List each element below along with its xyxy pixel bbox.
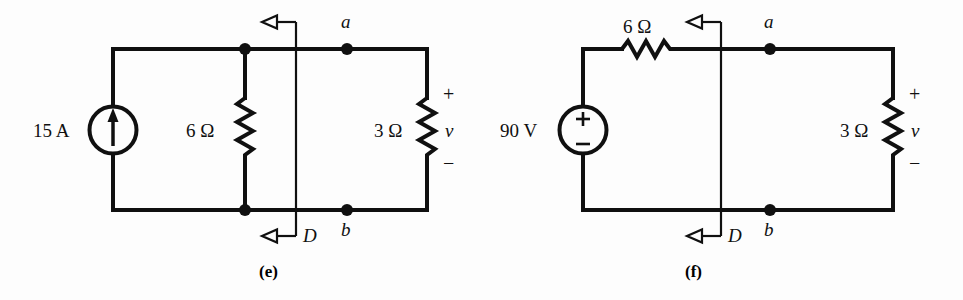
terminal-dot-a [341,43,353,55]
junction-dot-bottom-left [239,204,251,216]
terminal-dot-b [341,204,353,216]
junction-dot-top-left [239,43,251,55]
source-value-label-e: 15 A [33,121,69,140]
polarity-minus-f: − [909,153,920,173]
resistor-3-ohm-symbol [419,98,435,162]
resistor-6-ohm-label-f: 6 Ω [623,17,651,36]
voltage-source-symbol [560,107,607,154]
polarity-plus-f: + [909,84,920,104]
voltage-variable-label-e: v [445,121,453,140]
terminal-label-b-e: b [341,220,351,239]
terminal-label-b-f: b [764,220,774,239]
terminal-dot-a [764,43,776,55]
resistor-6-ohm-symbol [622,41,676,57]
terminal-label-a-f: a [764,12,774,31]
current-source-symbol [90,107,137,154]
arrow-left-open-bottom [687,230,702,243]
arrow-left-open-bottom [262,230,277,243]
cut-line-label-d-e: D [303,226,317,245]
figure-sheet: 15 A 6 Ω 3 Ω a b D + v − (e) [0,0,963,300]
circuit-f-schematic [480,0,963,300]
resistor-6-ohm-symbol [237,98,253,162]
resistor-3-ohm-label-e: 3 Ω [374,121,402,140]
voltage-variable-label-f: v [911,121,919,140]
circuit-e-schematic [0,0,480,300]
cut-line-label-d-f: D [728,226,742,245]
terminal-dot-b [764,204,776,216]
source-value-label-f: 90 V [500,121,537,140]
resistor-3-ohm-symbol [885,98,901,162]
circuit-diagram-f: 90 V 6 Ω 3 Ω a b D + v − (f) [480,0,963,300]
polarity-minus-e: − [443,153,454,173]
terminal-label-a-e: a [341,12,351,31]
panel-caption-e: (e) [259,262,278,282]
resistor-6-ohm-label-e: 6 Ω [186,121,214,140]
arrow-left-open-top [262,16,277,29]
arrow-left-open-top [687,16,702,29]
panel-caption-f: (f) [685,262,702,282]
polarity-plus-e: + [443,84,454,104]
resistor-3-ohm-label-f: 3 Ω [840,121,868,140]
circuit-diagram-e: 15 A 6 Ω 3 Ω a b D + v − (e) [0,0,480,300]
